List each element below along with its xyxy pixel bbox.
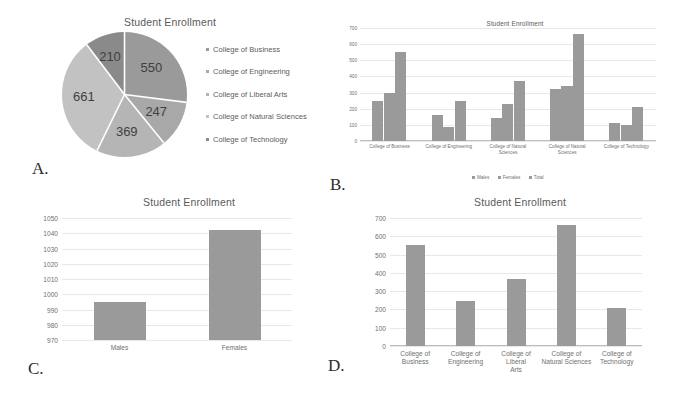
y-axis-tick-label: 0 — [341, 139, 357, 144]
panel-b-grouped-bar-chart: Student Enrollment 010020030040050060070… — [338, 20, 678, 195]
bar — [514, 81, 525, 141]
y-axis-tick-label: 400 — [341, 74, 357, 79]
gridline — [390, 255, 642, 256]
x-axis-label: College of Business — [360, 144, 419, 150]
y-axis-tick-label: 1030 — [32, 245, 58, 252]
y-axis-tick-label: 700 — [341, 26, 357, 31]
y-axis-tick-label: 1050 — [32, 215, 58, 222]
gridline — [390, 273, 642, 274]
x-axis-tick-label: Males — [111, 344, 129, 351]
x-axis-tick-label: Business — [402, 358, 429, 365]
y-axis-tick-label: 700 — [364, 215, 386, 222]
gender-bar-x-axis-labels: MalesFemales — [62, 344, 292, 360]
x-axis-tick-label: College of — [451, 350, 481, 357]
bar — [443, 127, 454, 141]
x-axis-tick-label: Females — [222, 344, 247, 351]
grouped-bar-legend: MalesFemalesTotal — [338, 175, 678, 180]
legend-item-label: Males — [477, 175, 489, 180]
y-axis-tick-label: 500 — [364, 251, 386, 258]
legend-swatch-icon — [206, 138, 209, 141]
y-axis-tick-label: 1010 — [32, 276, 58, 283]
legend-item-label: College of Natural Sciences — [213, 112, 307, 121]
panel-letter-a: A. — [32, 159, 49, 179]
grouped-bar-x-axis-labels: College of BusinessCollege of Engineerin… — [360, 144, 656, 162]
college-bar-title: Student Enrollment — [362, 196, 678, 208]
legend-swatch-icon — [206, 93, 209, 96]
y-axis-tick-label: 200 — [364, 306, 386, 313]
x-axis-tick-label: College of — [552, 350, 582, 357]
x-axis-tick-label: Natural Sciences — [541, 358, 591, 365]
y-axis-tick-label: 200 — [341, 106, 357, 111]
gridline — [62, 340, 292, 341]
gridline — [62, 218, 292, 219]
x-axis-label: College of Technology — [597, 144, 656, 150]
x-axis-tick-label: Sciences — [499, 150, 518, 155]
x-axis-tick-label: Technology — [600, 358, 633, 365]
x-axis-label: College ofNatural Sciences — [541, 350, 591, 366]
legend-swatch-icon — [206, 48, 209, 51]
college-bar-x-axis-labels: College ofBusinessCollege ofEngineeringC… — [390, 350, 642, 374]
pie-label-technology: 210 — [99, 49, 121, 64]
pie-label-business: 550 — [141, 60, 163, 75]
pie-chart-graphic: 550 247 369 661 210 — [62, 32, 187, 157]
x-axis-label: Females — [177, 344, 292, 352]
x-axis-label: College of NaturalSciences — [478, 144, 537, 155]
gridline — [390, 218, 642, 219]
bar — [632, 107, 643, 141]
bar — [607, 308, 626, 346]
bar — [384, 93, 395, 141]
bar — [209, 230, 261, 340]
y-axis-tick-label: 400 — [364, 269, 386, 276]
legend-item: Males — [472, 175, 489, 180]
legend-swatch-icon — [472, 176, 475, 179]
bar — [561, 86, 572, 141]
pie-label-liberal-arts: 369 — [116, 124, 138, 139]
y-axis-tick-label: 1020 — [32, 260, 58, 267]
y-axis-tick-label: 100 — [364, 324, 386, 331]
x-axis-label: College of LiberalArts — [491, 350, 541, 375]
legend-item-label: College of Liberal Arts — [213, 90, 287, 99]
y-axis-tick-label: 100 — [341, 122, 357, 127]
bar — [406, 245, 425, 346]
bar — [550, 89, 561, 141]
x-axis-tick-label: College of Natural — [490, 144, 527, 149]
gender-bar-title: Student Enrollment — [48, 196, 330, 208]
y-axis-tick-label: 1000 — [32, 291, 58, 298]
pie-chart-title: Student Enrollment — [10, 16, 330, 28]
legend-item-label: College of Business — [213, 45, 280, 54]
grouped-bar-title: Student Enrollment — [352, 20, 678, 27]
x-axis-label: College of NaturalSciences — [538, 144, 597, 155]
y-axis-tick-label: 990 — [32, 306, 58, 313]
panel-letter-b: B. — [330, 175, 346, 195]
legend-item-2: College of Liberal Arts — [206, 83, 307, 106]
y-axis-tick-label: 0 — [364, 343, 386, 350]
y-axis-tick-label: 600 — [341, 42, 357, 47]
legend-swatch-icon — [206, 115, 209, 118]
x-axis-label: College ofTechnology — [592, 350, 642, 366]
bar — [455, 101, 466, 141]
pie-label-engineering: 247 — [145, 104, 167, 119]
bar — [456, 301, 475, 346]
legend-item-4: College of Technology — [206, 128, 307, 151]
gender-bar-plot-area: 970980990100010101020103010401050 — [62, 218, 292, 340]
panel-c-gender-bar-chart: Student Enrollment 970980990100010101020… — [0, 196, 330, 396]
legend-item-1: College of Engineering — [206, 61, 307, 84]
gridline — [360, 141, 656, 142]
grouped-bar-plot-area: 0100200300400500600700 — [360, 28, 656, 141]
bar — [557, 225, 576, 346]
x-axis-tick-label: Engineering — [448, 358, 483, 365]
bar — [432, 115, 443, 141]
legend-item-label: Total — [534, 175, 544, 180]
bar — [621, 125, 632, 141]
gridline — [390, 346, 642, 347]
panel-letter-d: D. — [328, 356, 345, 376]
bar — [94, 302, 146, 340]
pie-chart-legend: College of BusinessCollege of Engineerin… — [206, 38, 307, 151]
x-axis-tick-label: Arts — [510, 366, 522, 373]
x-axis-tick-label: Sciences — [558, 150, 577, 155]
panel-d-college-bar-chart: Student Enrollment 010020030040050060070… — [338, 196, 678, 401]
x-axis-label: College of Engineering — [419, 144, 478, 150]
gridline — [390, 236, 642, 237]
legend-item-3: College of Natural Sciences — [206, 106, 307, 129]
y-axis-tick-label: 1040 — [32, 230, 58, 237]
